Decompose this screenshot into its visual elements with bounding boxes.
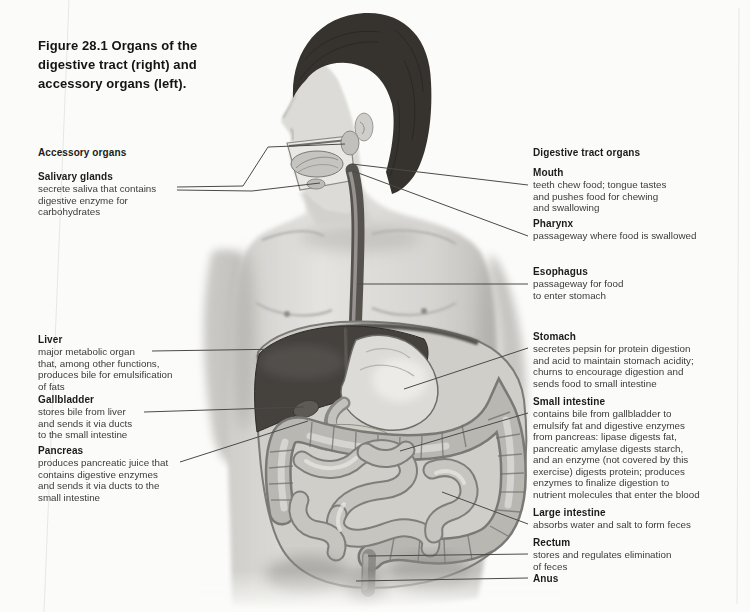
label-liver: Liver major metabolic organ that, among … <box>38 334 218 392</box>
label-salivary-glands-name: Salivary glands <box>38 171 208 182</box>
book-page: Figure 28.1 Organs of the digestive trac… <box>0 0 750 612</box>
label-liver-desc: major metabolic organ that, among other … <box>38 346 218 392</box>
label-anus: Anus <box>533 573 733 585</box>
label-pharynx-name: Pharynx <box>533 218 733 229</box>
label-mouth-desc: teeth chew food; tongue tastes and pushe… <box>533 179 733 214</box>
label-esophagus-name: Esophagus <box>533 266 733 277</box>
label-liver-name: Liver <box>38 334 218 345</box>
label-small-intestine-desc: contains bile from gallbladder to emulsi… <box>533 408 738 500</box>
label-anus-name: Anus <box>533 573 733 584</box>
page-edge-line <box>737 8 739 604</box>
label-gallbladder-name: Gallbladder <box>38 394 198 405</box>
label-rectum-desc: stores and regulates elimination of fece… <box>533 549 733 572</box>
label-gallbladder: Gallbladder stores bile from liver and s… <box>38 394 198 441</box>
label-mouth: Mouth teeth chew food; tongue tastes and… <box>533 167 733 214</box>
label-small-intestine-name: Small intestine <box>533 396 738 407</box>
label-gallbladder-desc: stores bile from liver and sends it via … <box>38 406 198 441</box>
label-pancreas-desc: produces pancreatic juice that contains … <box>38 457 218 503</box>
label-stomach: Stomach secretes pepsin for protein dige… <box>533 331 733 389</box>
bottom-fade <box>200 570 560 612</box>
label-rectum: Rectum stores and regulates elimination … <box>533 537 733 572</box>
label-small-intestine: Small intestine contains bile from gallb… <box>533 396 738 500</box>
label-mouth-name: Mouth <box>533 167 733 178</box>
tongue <box>291 151 343 177</box>
label-salivary-glands: Salivary glands secrete saliva that cont… <box>38 171 208 218</box>
esophagus-tube <box>350 170 358 338</box>
mouth-leader-line <box>352 164 528 185</box>
parotid-gland <box>341 131 359 155</box>
label-rectum-name: Rectum <box>533 537 733 548</box>
label-pancreas-name: Pancreas <box>38 445 218 456</box>
nipple-right <box>421 308 427 314</box>
label-large-intestine: Large intestine absorbs water and salt t… <box>533 507 733 531</box>
label-salivary-glands-desc: secrete saliva that contains digestive e… <box>38 183 208 218</box>
human-figure <box>200 13 560 612</box>
label-large-intestine-name: Large intestine <box>533 507 733 518</box>
label-esophagus-desc: passageway for food to enter stomach <box>533 278 733 301</box>
label-pharynx-desc: passageway where food is swallowed <box>533 230 733 242</box>
nipple-left <box>284 311 290 317</box>
label-stomach-desc: secretes pepsin for protein digestion an… <box>533 343 733 389</box>
label-large-intestine-desc: absorbs water and salt to form feces <box>533 519 733 531</box>
label-pancreas: Pancreas produces pancreatic juice that … <box>38 445 218 503</box>
label-pharynx: Pharynx passageway where food is swallow… <box>533 218 733 242</box>
label-stomach-name: Stomach <box>533 331 733 342</box>
left-column-heading: Accessory organs <box>38 147 126 158</box>
right-column-heading: Digestive tract organs <box>533 147 640 158</box>
label-esophagus: Esophagus passageway for food to enter s… <box>533 266 733 301</box>
figure-title: Figure 28.1 Organs of the digestive trac… <box>38 36 253 93</box>
